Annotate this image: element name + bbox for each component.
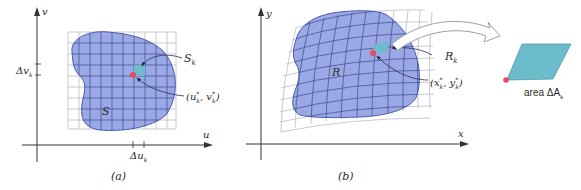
v-axis-arrow-icon [34,7,40,16]
caption-b: (b) [338,170,354,183]
delta-u-label: Δuk [129,150,148,163]
delta-v-label: Δvk [15,65,33,78]
region-r-label: R [331,66,340,79]
v-axis-label: v [42,6,48,17]
x-axis-label: x [458,128,464,139]
panel-b: y x [246,7,500,183]
caption-a: (a) [111,170,126,183]
inset-parallelogram: area ΔAk [503,44,571,100]
sample-point-a [130,72,136,78]
sample-point-b [370,50,376,56]
x-axis-arrow-icon [460,141,469,147]
area-label: area ΔAk [524,87,564,100]
rk-label: Rk [444,50,458,65]
diagram-canvas: v u [0,0,581,190]
y-axis-label: y [265,8,272,19]
sk-label: Sk [184,52,196,67]
area-patch [507,44,571,80]
inset-point [503,77,509,83]
region-s-label: S [102,105,110,118]
y-axis-arrow-icon [258,7,264,16]
u-axis-arrow-icon [204,142,213,148]
point-label-a: (u*k, v*k) [186,90,220,104]
region-s [72,32,176,131]
panel-a: v u [15,6,220,183]
point-label-b: (x*k, y*k) [430,76,463,90]
u-axis-label: u [203,129,209,140]
